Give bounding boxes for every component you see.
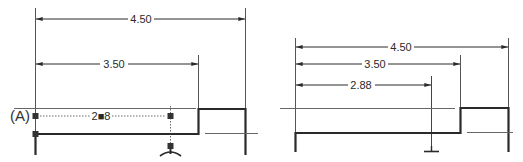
surface-symbol-icon bbox=[424, 146, 439, 152]
grip-square-icon[interactable] bbox=[168, 143, 174, 149]
part-profile bbox=[296, 108, 509, 152]
dimension-value-editing[interactable]: 2■8 bbox=[92, 110, 111, 122]
dimension-value[interactable]: 3.50 bbox=[103, 58, 124, 70]
dimension-value[interactable]: 3.50 bbox=[364, 58, 385, 70]
grip-square-icon[interactable] bbox=[168, 113, 174, 119]
dimension-3-50[interactable]: 3.50 bbox=[296, 58, 460, 70]
dimension-value[interactable]: 2.88 bbox=[350, 79, 371, 91]
grip-square-icon[interactable] bbox=[33, 131, 39, 137]
dimension-4-50[interactable]: 4.50 bbox=[36, 13, 245, 25]
grip-square-icon[interactable] bbox=[33, 113, 39, 119]
surface-symbol-icon bbox=[160, 149, 181, 156]
dimension-2-88[interactable]: 2.88 bbox=[296, 79, 431, 91]
dimension-3-50[interactable]: 3.50 bbox=[36, 58, 198, 70]
datum-label: (A) bbox=[10, 107, 30, 124]
left-view: 4.50 3.50 (A) 2■8 bbox=[10, 8, 258, 156]
right-view: 4.50 3.50 2.88 bbox=[280, 38, 513, 152]
drawing-canvas: 4.50 3.50 (A) 2■8 bbox=[0, 0, 523, 162]
dimension-value[interactable]: 4.50 bbox=[390, 41, 411, 53]
dimension-4-50[interactable]: 4.50 bbox=[296, 41, 508, 53]
dimension-value[interactable]: 4.50 bbox=[130, 13, 151, 25]
dimension-edit-2-88[interactable]: 2■8 bbox=[40, 106, 171, 148]
